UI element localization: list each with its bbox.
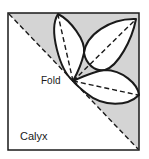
fold-label: Fold bbox=[41, 76, 60, 86]
calyx-label: Calyx bbox=[20, 131, 48, 142]
